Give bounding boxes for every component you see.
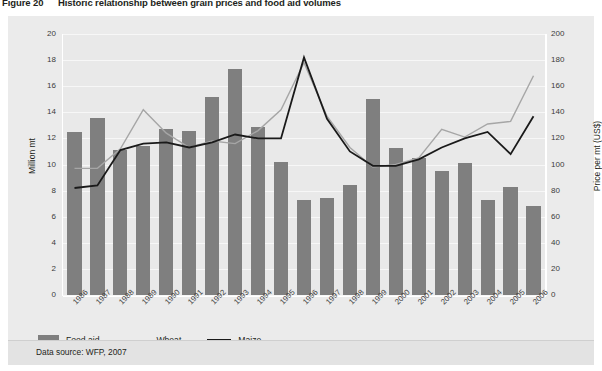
y-tick-left-6: 6 [26, 213, 56, 221]
y-tick-right-180: 180 [551, 56, 581, 64]
figure-title-text: Historic relationship between grain pric… [58, 0, 341, 8]
y-tick-right-80: 80 [551, 187, 581, 195]
y-tick-right-60: 60 [551, 213, 581, 221]
y-tick-left-0: 0 [26, 291, 56, 299]
y-tick-left-16: 16 [26, 82, 56, 90]
y-tick-right-100: 100 [551, 161, 581, 169]
y-tick-right-120: 120 [551, 134, 581, 142]
figure-number: Figure 20 [0, 0, 58, 8]
chart-panel: Million mt Price per mt (US$) 0246810121… [8, 16, 594, 364]
y-axis-right-title: Price per mt (US$) [592, 86, 602, 226]
y-tick-left-18: 18 [26, 56, 56, 64]
y-tick-right-20: 20 [551, 265, 581, 273]
y-tick-left-2: 2 [26, 265, 56, 273]
y-tick-right-40: 40 [551, 239, 581, 247]
maize-line [75, 58, 534, 189]
y-tick-left-10: 10 [26, 161, 56, 169]
wheat-line [75, 63, 534, 169]
y-tick-right-200: 200 [551, 30, 581, 38]
y-tick-right-0: 0 [551, 291, 581, 299]
plot-area [63, 34, 545, 295]
line-series-group [63, 34, 545, 295]
figure-title: Figure 20Historic relationship between g… [0, 0, 602, 9]
y-tick-left-20: 20 [26, 30, 56, 38]
y-axis-right-line [545, 34, 547, 296]
y-tick-right-140: 140 [551, 108, 581, 116]
figure-footer: Data source: WFP, 2007 [8, 340, 594, 365]
y-tick-left-14: 14 [26, 108, 56, 116]
y-tick-right-160: 160 [551, 82, 581, 90]
data-source-text: Data source: WFP, 2007 [36, 347, 127, 357]
y-tick-left-4: 4 [26, 239, 56, 247]
y-tick-left-12: 12 [26, 134, 56, 142]
y-tick-left-8: 8 [26, 187, 56, 195]
